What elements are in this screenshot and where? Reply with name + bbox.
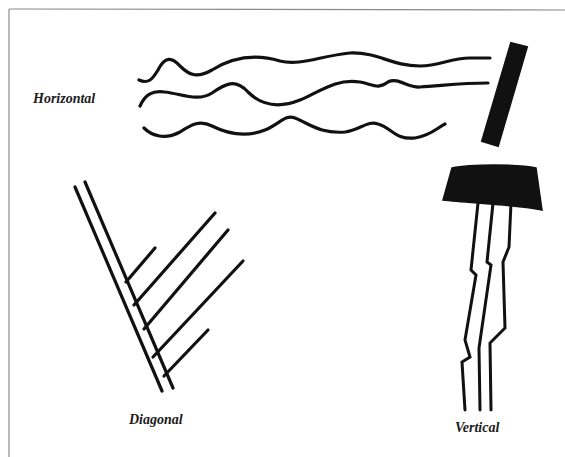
horizontal-strand-3 <box>144 117 445 138</box>
horizontal-figure <box>139 43 527 146</box>
diagram-svg <box>0 0 565 457</box>
diagram-canvas: Horizontal Diagonal Vertical <box>0 0 565 457</box>
vertical-figure <box>443 165 542 410</box>
diagonal-figure <box>75 182 243 391</box>
frame-border <box>9 9 565 457</box>
vertical-label: Vertical <box>455 420 499 436</box>
vertical-strand-3 <box>490 203 511 410</box>
horizontal-label: Horizontal <box>33 91 95 107</box>
diagonal-main-line-2 <box>85 182 173 388</box>
vertical-strand-1 <box>462 203 478 410</box>
horizontal-strand-2 <box>140 81 488 106</box>
diagonal-label: Diagonal <box>129 412 183 428</box>
horizontal-strand-1 <box>139 53 490 82</box>
diagonal-branch-1 <box>126 248 155 282</box>
